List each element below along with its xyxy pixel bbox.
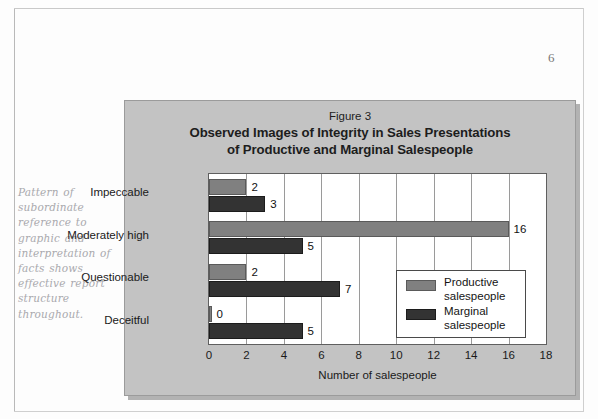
bar-value-moderately-high-productive: 16 [514, 221, 527, 237]
bar-moderately-high-productive [209, 221, 509, 237]
x-tick-label-16: 16 [502, 349, 515, 361]
bar-value-deceitful-productive: 0 [217, 306, 223, 322]
bar-value-impeccable-productive: 2 [251, 179, 257, 195]
legend-swatch-marginal [406, 309, 436, 320]
bar-value-moderately-high-marginal: 5 [308, 238, 314, 254]
gridline-x-4 [284, 174, 285, 344]
gridline-x-6 [321, 174, 322, 344]
x-tick-label-8: 8 [356, 349, 362, 361]
legend-row-productive: Productive salespeople [406, 278, 525, 307]
figure-caption-label: Figure 3 [125, 109, 575, 124]
bar-value-questionable-productive: 2 [251, 264, 257, 280]
x-tick-label-0: 0 [206, 349, 212, 361]
page-border-bottom [14, 411, 584, 412]
page-border-left [14, 8, 15, 412]
x-tick-label-4: 4 [281, 349, 287, 361]
category-label-questionable: Questionable [0, 271, 149, 283]
bar-value-deceitful-marginal: 5 [308, 323, 314, 339]
bar-value-impeccable-marginal: 3 [270, 196, 276, 212]
x-tick-label-2: 2 [243, 349, 249, 361]
figure-panel: Figure 3 Observed Images of Integrity in… [124, 100, 576, 396]
page-border-right [583, 8, 584, 412]
x-axis-title: Number of salespeople [208, 369, 547, 381]
page-border-top [14, 8, 584, 9]
legend-row-marginal: Marginal salespeople [406, 307, 525, 336]
x-tick-label-14: 14 [465, 349, 478, 361]
x-tick-label-12: 12 [427, 349, 440, 361]
legend-label-productive: Productive salespeople [444, 275, 525, 303]
bar-questionable-marginal [209, 281, 340, 297]
bar-moderately-high-marginal [209, 238, 303, 254]
category-label-deceitful: Deceitful [0, 314, 149, 326]
bar-deceitful-marginal [209, 323, 303, 339]
legend-label-productive-text: Productive salespeople [444, 276, 505, 302]
page-number: 6 [548, 50, 555, 66]
bar-impeccable-marginal [209, 196, 265, 212]
bar-deceitful-productive [209, 306, 212, 322]
category-label-impeccable: Impeccable [0, 186, 149, 198]
bar-value-questionable-marginal: 7 [345, 281, 351, 297]
legend-swatch-productive [406, 280, 436, 291]
page-sheet: 6 Pattern of subordinate reference to gr… [0, 0, 598, 419]
legend-label-marginal-text: Marginal salespeople [444, 305, 505, 331]
category-label-moderately-high: Moderately high [0, 229, 149, 241]
figure-title-line-2: of Productive and Marginal Salespeople [125, 141, 575, 158]
margin-annotation: Pattern of subordinate reference to grap… [18, 185, 122, 322]
gridline-x-8 [359, 174, 360, 344]
chart-legend: Productive salespeople Marginal salespeo… [396, 270, 526, 338]
x-tick-label-18: 18 [540, 349, 553, 361]
x-tick-label-6: 6 [318, 349, 324, 361]
figure-title: Figure 3 Observed Images of Integrity in… [125, 109, 575, 158]
bar-impeccable-productive [209, 179, 246, 195]
figure-title-line-1: Observed Images of Integrity in Sales Pr… [125, 124, 575, 141]
x-tick-label-10: 10 [390, 349, 403, 361]
bar-questionable-productive [209, 264, 246, 280]
legend-label-marginal: Marginal salespeople [444, 304, 525, 332]
